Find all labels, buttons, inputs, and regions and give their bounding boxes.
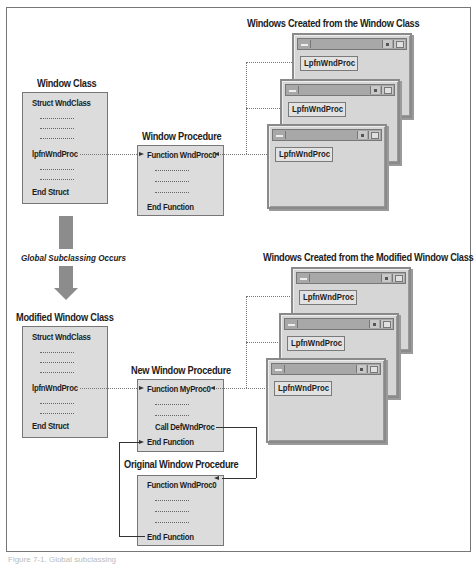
arrow-right-icon [139, 440, 144, 444]
lpfnwndproc-field: lpfnWndProc [32, 382, 78, 393]
call-connector [256, 427, 257, 478]
placeholder-dots [40, 138, 74, 139]
placeholder-dots [155, 415, 189, 416]
placeholder-dots [155, 511, 189, 512]
function-line: Function WndProc0 [147, 479, 216, 490]
transition-arrow-upper [59, 216, 73, 249]
maximize-icon [381, 86, 393, 94]
window-class-box: Struct WndClass lpfnWndProc End Struct [22, 92, 108, 204]
window-procedure-title: Window Procedure [142, 130, 221, 142]
window-procedure-box: Function WndProc0 End Function [137, 145, 224, 216]
lpfnwndproc-field: LpfnWndProc [288, 102, 346, 117]
end-function-line: End Function [147, 531, 194, 542]
title-bar [285, 84, 395, 96]
minimize-icon [381, 274, 391, 282]
placeholder-dots [155, 170, 189, 171]
system-menu-icon [287, 86, 299, 94]
lpfnwndproc-field: LpfnWndProc [274, 381, 332, 396]
struct-line: Struct WndClass [32, 97, 91, 108]
window-class-title: Window Class [37, 77, 96, 89]
system-menu-icon [273, 365, 285, 373]
system-menu-icon [299, 40, 311, 48]
end-function-line: End Function [147, 436, 194, 447]
function-line: Function MyProc0 [147, 383, 211, 394]
title-bar [284, 318, 394, 330]
lpfnwndproc-field: LpfnWndProc [287, 336, 345, 351]
placeholder-dots [40, 403, 74, 404]
placeholder-dots [40, 179, 74, 180]
original-window-procedure-title: Original Window Procedure [124, 458, 238, 470]
title-bar [297, 38, 407, 50]
maximize-icon [367, 365, 379, 373]
maximize-icon [393, 40, 405, 48]
placeholder-dots [40, 352, 74, 353]
arrow-left-icon [210, 386, 215, 390]
lpfnwndproc-field: LpfnWndProc [299, 290, 357, 305]
transition-label: Global Subclassing Occurs [21, 252, 126, 263]
title-bar [272, 129, 382, 141]
placeholder-dots [40, 413, 74, 414]
class-to-proc-connector [80, 388, 137, 389]
struct-line: Struct WndClass [32, 331, 91, 342]
end-struct-line: End Struct [32, 186, 69, 197]
lpfnwndproc-field: lpfnWndProc [32, 148, 78, 159]
windows-group-title: Windows Created from the Window Class [247, 17, 419, 29]
placeholder-dots [155, 404, 189, 405]
function-line: Function WndProc0 [147, 149, 216, 160]
call-connector [216, 427, 256, 428]
minimize-icon [370, 86, 380, 94]
lpfnwndproc-field: LpfnWndProc [300, 56, 358, 71]
minimize-icon [356, 365, 366, 373]
minimize-icon [369, 320, 379, 328]
return-connector [119, 536, 145, 537]
placeholder-dots [155, 181, 189, 182]
maximize-icon [368, 131, 380, 139]
placeholder-dots [40, 362, 74, 363]
system-menu-icon [274, 131, 286, 139]
original-window-procedure-box: Function WndProc0 End Function [137, 475, 224, 546]
window-front: LpfnWndProc [266, 358, 386, 443]
down-arrow-icon [54, 288, 78, 300]
end-function-line: End Function [147, 201, 194, 212]
window-front: LpfnWndProc [267, 124, 387, 209]
new-window-procedure-title: New Window Procedure [131, 364, 231, 376]
placeholder-dots [40, 372, 74, 373]
arrow-right-icon [139, 152, 144, 156]
placeholder-dots [40, 169, 74, 170]
arrow-left-icon [214, 476, 219, 480]
lpfnwndproc-field: LpfnWndProc [275, 147, 333, 162]
minimize-icon [357, 131, 367, 139]
return-connector [119, 442, 120, 536]
minimize-icon [382, 40, 392, 48]
system-menu-icon [286, 320, 298, 328]
placeholder-dots [155, 500, 189, 501]
placeholder-dots [155, 192, 189, 193]
placeholder-dots [155, 522, 189, 523]
arrow-right-icon [139, 386, 144, 390]
modified-window-class-title: Modified Window Class [16, 311, 114, 323]
figure-caption: Figure 7-1. Global subclassing [8, 555, 116, 564]
maximize-icon [392, 274, 404, 282]
return-connector [119, 442, 139, 443]
modified-window-class-box: Struct WndClass lpfnWndProc End Struct [22, 326, 108, 438]
title-bar [296, 272, 406, 284]
placeholder-dots [40, 128, 74, 129]
call-connector [222, 478, 256, 479]
call-defwndproc-line: Call DefWndProc [155, 421, 215, 432]
transition-arrow-lower [59, 266, 73, 289]
maximize-icon [380, 320, 392, 328]
class-to-proc-connector [80, 154, 137, 155]
system-menu-icon [298, 274, 310, 282]
arrow-left-icon [214, 152, 219, 156]
modified-windows-group-title: Windows Created from the Modified Window… [263, 251, 473, 263]
end-struct-line: End Struct [32, 420, 69, 431]
placeholder-dots [40, 118, 74, 119]
title-bar [271, 363, 381, 375]
